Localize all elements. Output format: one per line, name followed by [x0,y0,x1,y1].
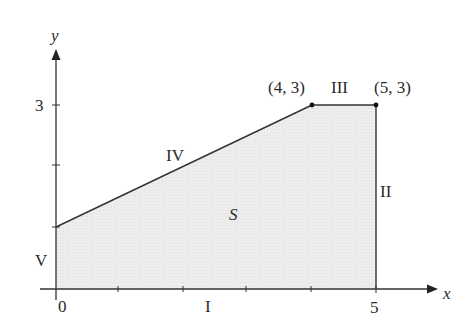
y-axis-label: y [49,26,59,45]
origin-label: 0 [58,297,67,316]
y-tick-label-3: 3 [35,96,44,115]
edge-label-v: V [35,251,48,270]
region-label-s: S [229,205,238,224]
point-5-3-dot [374,103,379,108]
point-4-3-dot [310,103,315,108]
x-axis-label: x [442,284,451,303]
edge-label-ii: II [380,182,392,201]
point-label-5-3: (5, 3) [374,78,411,97]
coordinate-diagram: y x 3 0 5 (4, 3) (5, 3) I II III IV V S [0,0,463,325]
point-label-4-3: (4, 3) [268,78,305,97]
edge-label-iii: III [331,78,348,97]
region-s-fill [56,105,376,289]
x-axis-arrow-icon [427,285,438,294]
edge-label-i: I [205,297,211,316]
edge-label-iv: IV [166,146,185,165]
y-axis-arrow-icon [52,49,61,60]
x-tick-label-5: 5 [370,298,379,317]
